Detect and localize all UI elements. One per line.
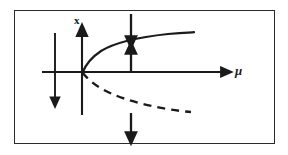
x-axis-label: x	[74, 15, 80, 26]
stable-branch-curve	[83, 32, 195, 72]
unstable-branch-curve	[83, 73, 192, 113]
bifurcation-plot	[0, 0, 288, 155]
mu-axis-label: μ	[235, 64, 242, 77]
figure-canvas: x μ	[0, 0, 288, 155]
